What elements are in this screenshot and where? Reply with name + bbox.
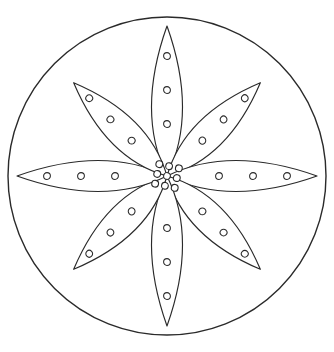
petal-north-dot-2	[164, 87, 171, 94]
petal-east-dot-1	[216, 173, 223, 180]
mandala-artwork	[0, 0, 334, 352]
petal-south-dot-1	[164, 225, 171, 232]
petal-south-dot-3	[164, 293, 171, 300]
mandala-canvas	[0, 0, 334, 352]
petal-north-dot-1	[164, 121, 171, 128]
petal-east-dot-3	[284, 173, 291, 180]
petal-south-dot-2	[164, 259, 171, 266]
petal-north-dot-3	[164, 53, 171, 60]
petal-west-dot-1	[112, 173, 119, 180]
petal-west-dot-3	[44, 173, 51, 180]
petal-west-dot-2	[78, 173, 85, 180]
center-dot-cluster	[151, 160, 183, 192]
petal-east-dot-2	[250, 173, 257, 180]
